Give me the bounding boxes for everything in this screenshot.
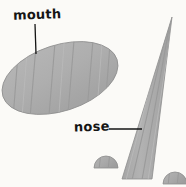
mouth-ellipse-body <box>0 28 127 128</box>
right-dome-body <box>163 172 186 184</box>
left-dome-shape[interactable] <box>94 152 118 170</box>
nose-label: nose <box>74 120 110 134</box>
diagram-svg <box>0 0 186 187</box>
mouth-shape[interactable] <box>0 16 127 132</box>
mouth-label: mouth <box>13 7 62 22</box>
left-dome-body <box>94 156 118 168</box>
nose-shape[interactable] <box>122 17 173 180</box>
mouth-leader-line <box>35 24 36 54</box>
figure-canvas: mouth nose <box>0 0 186 187</box>
right-dome-shape[interactable] <box>163 168 186 186</box>
